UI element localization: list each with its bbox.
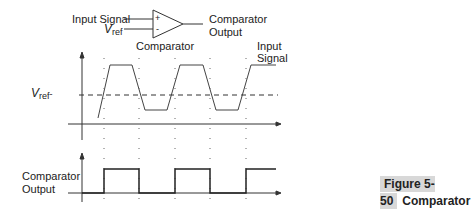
vref-sub: ref (112, 27, 123, 37)
comparator-label: Comparator (136, 40, 194, 52)
input-signal-waveform (98, 65, 276, 118)
schematic-output-label-2: Output (209, 26, 242, 38)
minus-sign: - (156, 23, 159, 35)
input-signal-plot-label-1: Input (257, 40, 281, 52)
vref-axis-v: V (31, 86, 39, 100)
figure-caption: Figure 5-50Comparator response (382, 176, 474, 214)
input-signal-plot-label-2: Signal (257, 52, 288, 64)
top-plot-axes (68, 52, 281, 140)
output-plot-label-2: Output (22, 183, 55, 195)
caption-title-1: Comparator (402, 194, 470, 208)
comparator-symbol (124, 10, 203, 38)
output-plot-label-1: Comparator (22, 170, 80, 182)
vref-axis-label: Vref- (31, 87, 53, 102)
vref-axis-sub: ref (39, 91, 50, 101)
vref-v: V (104, 22, 112, 36)
vref-input-label: Vref (104, 23, 123, 38)
schematic-output-label-1: Comparator (209, 13, 267, 25)
comparator-output-waveform (82, 169, 276, 193)
caption-title-2: response (382, 210, 474, 214)
